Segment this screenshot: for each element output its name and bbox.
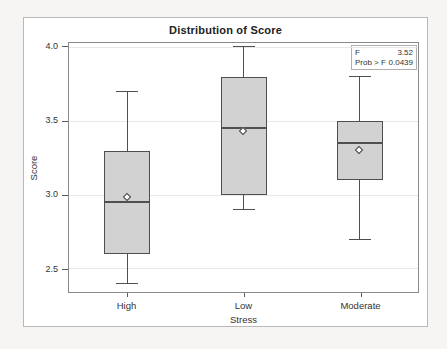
upper-whisker-cap-moderate bbox=[349, 76, 371, 77]
chart-title: Distribution of Score bbox=[24, 24, 427, 36]
x-tick-mark bbox=[127, 293, 128, 297]
y-tick-label: 3.5 bbox=[24, 115, 58, 125]
stat-f-label: F bbox=[355, 48, 360, 58]
upper-whisker-cap-low bbox=[233, 46, 255, 47]
gridline bbox=[69, 268, 418, 269]
x-tick-label-high: High bbox=[87, 300, 167, 311]
chart-figure: Distribution of Score Score F 3.52 Prob … bbox=[23, 17, 428, 327]
x-tick-mark bbox=[361, 293, 362, 297]
lower-whisker-moderate bbox=[359, 180, 360, 239]
plot-area: F 3.52 Prob > F 0.0439 bbox=[68, 42, 419, 293]
lower-whisker-cap-moderate bbox=[349, 239, 371, 240]
upper-whisker-low bbox=[243, 47, 244, 76]
y-tick-mark bbox=[62, 46, 68, 47]
y-tick-label: 3.0 bbox=[24, 189, 58, 199]
stats-row-prob: Prob > F 0.0439 bbox=[355, 58, 413, 68]
box-low bbox=[221, 77, 267, 195]
y-tick-mark bbox=[62, 195, 68, 196]
stat-f-value: 3.52 bbox=[397, 48, 413, 58]
lower-whisker-high bbox=[127, 254, 128, 283]
lower-whisker-low bbox=[243, 195, 244, 210]
stat-prob-value: 0.0439 bbox=[389, 58, 413, 68]
y-tick-label: 4.0 bbox=[24, 41, 58, 51]
anova-stats-box: F 3.52 Prob > F 0.0439 bbox=[351, 45, 417, 70]
median-line-high bbox=[104, 201, 150, 203]
upper-whisker-high bbox=[127, 92, 128, 151]
y-tick-mark bbox=[62, 121, 68, 122]
stat-prob-label: Prob > F bbox=[355, 58, 386, 68]
lower-whisker-cap-low bbox=[233, 209, 255, 210]
page: { "chart_data": { "type": "box", "title"… bbox=[0, 0, 447, 349]
y-tick-label: 2.5 bbox=[24, 264, 58, 274]
median-line-moderate bbox=[337, 142, 383, 144]
lower-whisker-cap-high bbox=[116, 283, 138, 284]
x-axis-title: Stress bbox=[68, 314, 419, 325]
upper-whisker-cap-high bbox=[116, 91, 138, 92]
upper-whisker-moderate bbox=[359, 77, 360, 121]
x-tick-label-moderate: Moderate bbox=[321, 300, 401, 311]
stats-row-f: F 3.52 bbox=[355, 48, 413, 58]
x-tick-mark bbox=[244, 293, 245, 297]
x-tick-label-low: Low bbox=[204, 300, 284, 311]
y-tick-mark bbox=[62, 269, 68, 270]
